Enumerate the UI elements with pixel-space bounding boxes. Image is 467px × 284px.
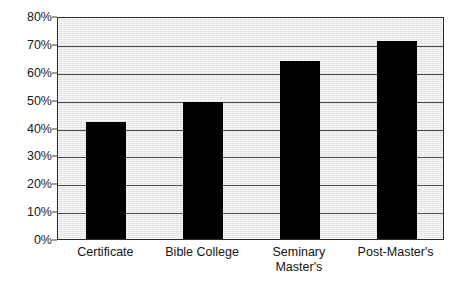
y-axis-tick-label: 0% <box>0 234 52 247</box>
bar <box>280 61 320 239</box>
y-axis-tick-label: 10% <box>0 206 52 219</box>
x-axis-category-label: Post-Master's <box>347 245 444 260</box>
y-axis-tick-label: 80% <box>0 11 52 24</box>
x-axis-category-label: Bible College <box>154 245 251 260</box>
y-axis-tick-label: 60% <box>0 67 52 80</box>
x-axis-category-label: Seminary Master's <box>251 245 348 275</box>
y-axis: 80%70%60%50%40%30%20%10%0% <box>0 17 52 240</box>
y-axis-tick-label: 70% <box>0 39 52 52</box>
y-axis-tick-label: 40% <box>0 122 52 135</box>
y-axis-tick-label: 30% <box>0 150 52 163</box>
bar-chart: 80%70%60%50%40%30%20%10%0% CertificateBi… <box>0 0 467 284</box>
y-axis-tick-label: 20% <box>0 178 52 191</box>
bar <box>377 41 417 239</box>
bar <box>86 122 126 239</box>
bar <box>183 102 223 239</box>
x-axis: CertificateBible CollegeSeminary Master'… <box>57 245 444 284</box>
x-axis-category-label: Certificate <box>57 245 154 260</box>
y-axis-tick-label: 50% <box>0 94 52 107</box>
plot-area <box>57 17 444 240</box>
